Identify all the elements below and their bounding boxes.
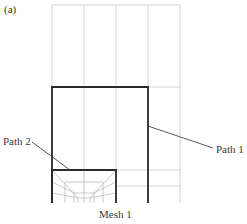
path-2-label: Path 2 — [3, 135, 31, 147]
fine-mesh — [52, 170, 116, 203]
path-1-leader — [148, 126, 213, 148]
mesh-diagram — [0, 0, 247, 224]
figure-caption: Mesh 1 — [99, 208, 132, 220]
path-1-label: Path 1 — [216, 143, 244, 155]
path-2-leader — [32, 142, 70, 170]
